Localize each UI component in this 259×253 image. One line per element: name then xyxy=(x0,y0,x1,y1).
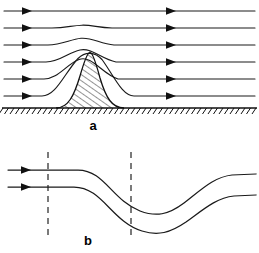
arrow-icon xyxy=(166,41,176,49)
streamline-b-1 xyxy=(8,166,256,214)
panel-label-a: a xyxy=(89,118,97,133)
arrow-icon xyxy=(166,58,176,66)
arrow-icon xyxy=(166,7,176,15)
ground-hatching xyxy=(0,108,256,114)
arrow-icon xyxy=(22,24,32,32)
arrow-icon xyxy=(22,41,32,49)
arrow-icon xyxy=(22,75,32,83)
arrow-icon xyxy=(166,75,176,83)
panel-b: b xyxy=(8,152,256,248)
arrow-icon xyxy=(21,183,31,191)
arrow-icon xyxy=(22,58,32,66)
arrow-icon xyxy=(166,24,176,32)
streamline-a-1 xyxy=(4,7,255,15)
panel-label-b: b xyxy=(84,233,92,248)
arrow-icon xyxy=(22,92,32,100)
flow-diagram-svg: a b xyxy=(0,0,259,253)
streamline-a-2 xyxy=(4,24,255,32)
streamline-a-3 xyxy=(4,38,255,49)
figure-root: a b xyxy=(0,0,259,253)
arrow-icon xyxy=(22,7,32,15)
hill-obstacle xyxy=(56,52,124,108)
arrow-icon xyxy=(21,166,31,174)
streamline-b-2 xyxy=(8,183,256,233)
panel-a: a xyxy=(0,7,257,133)
streamline-a-6 xyxy=(4,53,255,99)
streamline-a-4 xyxy=(4,50,255,66)
hill-hatch-fill xyxy=(56,52,124,108)
arrow-icon xyxy=(166,92,176,100)
